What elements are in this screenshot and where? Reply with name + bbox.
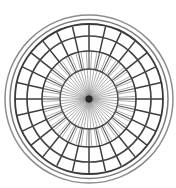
hub-layer (86, 96, 92, 102)
figure-root: Rosette Wheel Diagram Monochrome line dr… (0, 0, 176, 188)
rosette-wheel-figure (0, 0, 176, 188)
center-hub (86, 96, 92, 102)
